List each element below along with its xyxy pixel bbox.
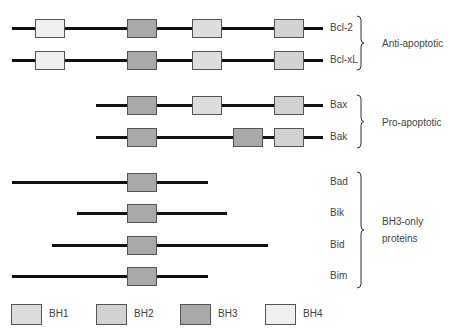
domain-bh3 [127, 96, 157, 115]
protein-label: Bak [330, 131, 347, 143]
domain-bh2 [274, 128, 304, 147]
legend-label: BH4 [303, 308, 322, 319]
domain-bh4 [35, 19, 65, 38]
domain-bh2 [274, 19, 304, 38]
protein-label: Bcl-2 [330, 22, 353, 34]
domain-bh2 [274, 51, 304, 70]
brace-icon [356, 95, 368, 148]
domain-bh3 [127, 128, 157, 147]
legend-swatch-bh1 [11, 304, 42, 325]
group-label: Pro-apoptotic [382, 114, 441, 131]
legend-label: BH2 [134, 308, 153, 319]
group-label-line: BH3-only [382, 213, 423, 230]
domain-bh4 [35, 51, 65, 70]
domain-bh1 [192, 19, 222, 38]
domain-bh2 [274, 96, 304, 115]
protein-label: Bad [330, 176, 348, 188]
domain-bh1 [192, 51, 222, 70]
protein-label: Bax [330, 99, 347, 111]
group-label: BH3-onlyproteins [382, 213, 423, 247]
legend-label: BH3 [218, 308, 237, 319]
protein-label: Bid [330, 239, 344, 251]
brace-icon [356, 16, 368, 70]
domain-bh3 [127, 204, 157, 223]
brace-icon [356, 172, 368, 288]
protein-label: Bik [330, 207, 344, 219]
protein-label: Bim [330, 270, 347, 282]
legend-swatch-bh3 [180, 304, 211, 325]
legend-swatch-bh4 [265, 304, 296, 325]
domain-bh3 [127, 51, 157, 70]
group-label-line: proteins [382, 230, 423, 247]
protein-line [52, 244, 268, 247]
domain-bh3 [127, 267, 157, 286]
domain-bh3 [127, 236, 157, 255]
legend-label: BH1 [49, 308, 68, 319]
group-label: Anti-apoptotic [382, 35, 443, 52]
domain-bh1 [192, 96, 222, 115]
domain-bh3 [127, 19, 157, 38]
domain-bh3 [127, 173, 157, 192]
protein-line [12, 275, 208, 278]
legend-swatch-bh2 [96, 304, 127, 325]
domain-bh3 [233, 128, 263, 147]
protein-label: Bcl-xL [330, 54, 358, 66]
protein-line [12, 181, 208, 184]
